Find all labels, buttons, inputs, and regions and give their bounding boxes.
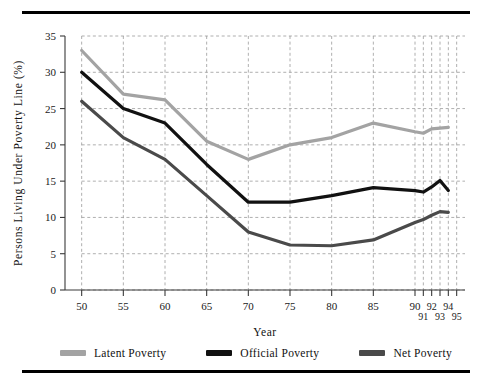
series-line-official-poverty	[82, 72, 449, 202]
y-tick-label: 5	[51, 248, 57, 260]
x-tick-label: 91	[418, 311, 428, 322]
y-tick-label: 15	[45, 175, 57, 187]
x-tick-label: 70	[243, 300, 255, 312]
x-axis-ticks: 5055606570758085909192939495	[76, 290, 462, 322]
y-tick-label: 0	[51, 284, 57, 296]
grid-lines	[82, 36, 465, 290]
x-tick-label: 55	[118, 300, 130, 312]
x-tick-label: 75	[285, 300, 297, 312]
axes	[65, 36, 465, 290]
y-tick-label: 25	[45, 103, 57, 115]
legend-swatch-official-poverty	[206, 350, 232, 356]
x-tick-label: 65	[201, 300, 213, 312]
x-tick-label: 50	[76, 300, 88, 312]
figure-page: 0510152025303550556065707580859091929394…	[0, 0, 492, 385]
x-axis-title: Year	[253, 326, 277, 338]
y-axis-ticks: 05101520253035	[45, 30, 65, 296]
data-series-group	[82, 51, 449, 246]
series-line-net-poverty	[82, 101, 449, 245]
legend-swatch-net-poverty	[359, 350, 385, 356]
legend-item-net-poverty[interactable]: Net Poverty	[359, 347, 452, 359]
poverty-line-chart: 0510152025303550556065707580859091929394…	[0, 0, 492, 385]
legend-item-official-poverty[interactable]: Official Poverty	[206, 347, 319, 359]
y-tick-label: 10	[45, 211, 57, 223]
x-tick-label: 80	[326, 300, 338, 312]
y-tick-label: 35	[45, 30, 57, 42]
legend-item-latent-poverty[interactable]: Latent Poverty	[60, 347, 166, 359]
y-tick-label: 30	[45, 66, 57, 78]
x-tick-label: 85	[368, 300, 380, 312]
x-tick-label: 60	[160, 300, 172, 312]
legend-label-latent-poverty: Latent Poverty	[94, 347, 166, 359]
chart-legend: Latent Poverty Official Poverty Net Pove…	[60, 344, 452, 362]
legend-label-net-poverty: Net Poverty	[393, 347, 452, 359]
x-tick-label: 93	[435, 311, 445, 322]
y-axis-title: Persons Living Under Poverty Line (%)	[12, 60, 25, 266]
chart-svg: 0510152025303550556065707580859091929394…	[0, 0, 492, 385]
x-tick-label: 95	[452, 311, 462, 322]
legend-label-official-poverty: Official Poverty	[240, 347, 319, 359]
y-tick-label: 20	[45, 139, 57, 151]
legend-swatch-latent-poverty	[60, 350, 86, 356]
